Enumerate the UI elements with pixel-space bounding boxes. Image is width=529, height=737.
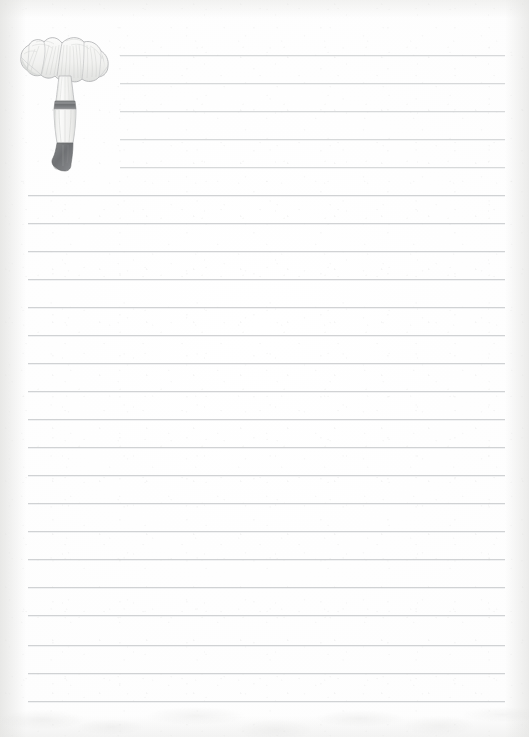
rule-line [28, 645, 505, 646]
rule-line [28, 279, 505, 280]
rule-line [28, 615, 505, 616]
rule-line [28, 419, 505, 420]
mushroom-cap [21, 38, 108, 82]
rule-line [28, 223, 505, 224]
rule-line [120, 167, 505, 168]
rule-line [28, 391, 505, 392]
rule-line [28, 531, 505, 532]
rule-line [28, 307, 505, 308]
stationery-page [0, 0, 529, 737]
rule-line [28, 335, 505, 336]
mushroom-illustration [18, 30, 112, 175]
rule-line [28, 559, 505, 560]
rule-line [28, 587, 505, 588]
rule-line [28, 195, 505, 196]
rule-line [28, 363, 505, 364]
mushroom-stem-base [52, 143, 73, 171]
rule-line [120, 139, 505, 140]
mushroom-drawing [18, 30, 112, 175]
mushroom-cap-group [21, 38, 108, 82]
rule-line [120, 55, 505, 56]
rule-line [28, 251, 505, 252]
rule-line [28, 447, 505, 448]
rule-line [28, 701, 505, 702]
rule-line [28, 503, 505, 504]
rule-line [120, 111, 505, 112]
rule-line [120, 83, 505, 84]
rule-line [28, 673, 505, 674]
rule-line [28, 475, 505, 476]
